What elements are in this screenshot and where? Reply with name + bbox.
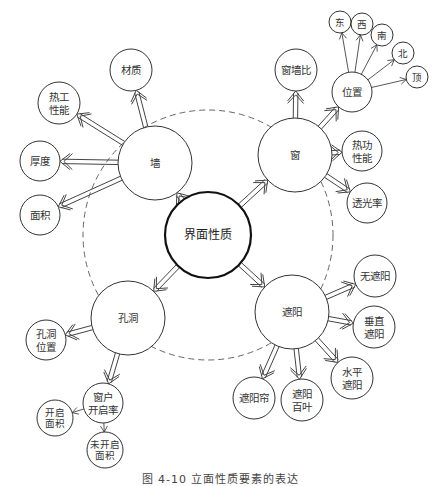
node-label: 透光率 [352,197,382,209]
double-arrow-icon [60,154,118,170]
node-shade-curtain: 遮阳帘 [233,377,275,419]
node-label: 孔洞 [118,312,138,324]
node-window-thermal: 热功性能 [342,131,382,171]
node-label: 东 [335,17,345,28]
node-window: 窗 [258,118,332,192]
double-arrow-icon [315,338,338,363]
node-pos-top: 顶 [406,66,428,88]
node-label: 垂直 [364,315,385,327]
node-label: 孔洞 [36,328,56,340]
node-opening: 孔洞 [91,281,165,355]
node-window-wall-ratio: 窗墙比 [275,49,317,91]
node-label: 窗户 [93,391,113,403]
arrow-icon [339,33,348,72]
node-pos-west: 西 [351,13,373,35]
double-arrow-icon [325,174,351,193]
node-wall-thermal: 热工性能 [38,82,80,124]
figure-caption: 图 4-10 立面性质要素的表达 [0,470,441,486]
node-wall-material: 材质 [110,49,152,91]
double-arrow-icon [238,180,268,208]
node-label: 西 [357,19,367,30]
node-label: 遮阳 [292,388,312,400]
nodes: 界面性质墙窗孔洞遮阳材质热工性能厚度面积窗墙比位置热功性能透光率孔洞位置窗户开启… [20,11,428,468]
double-arrow-icon [290,349,306,380]
double-arrow-icon [325,281,356,299]
double-arrow-icon [318,107,339,129]
node-horizontal-shading: 水平遮阳 [331,357,373,399]
node-shading: 遮阳 [255,275,329,349]
node-label: 热工 [49,91,69,103]
node-wall-thickness: 厚度 [20,141,60,181]
arrow-icon [100,423,107,432]
node-wall: 墙 [118,126,192,200]
node-label: 性能 [352,152,373,164]
node-label: 面积 [45,418,65,429]
node-opening-position: 孔洞位置 [26,320,66,360]
node-label: 窗墙比 [281,64,311,76]
node-label: 开启 [45,407,65,418]
node-pos-east: 东 [329,11,351,33]
node-label: 性能 [49,104,70,116]
node-label: 窗 [290,149,300,161]
node-label: 顶 [412,72,422,83]
node-label: 材质 [121,64,141,76]
node-label: 位置 [342,86,362,98]
node-label: 厚度 [30,155,51,167]
double-arrow-icon [259,345,279,379]
node-pos-north: 北 [392,42,414,64]
node-label: 无遮阳 [360,270,390,282]
node-window-transmittance: 透光率 [347,183,387,223]
node-label: 热功 [352,139,372,151]
double-arrow-icon [104,353,120,384]
node-label: 面积 [95,450,115,461]
node-label: 百叶 [292,401,313,413]
node-label: 北 [398,48,408,59]
node-label: 遮阳帘 [239,392,269,404]
node-label: 位置 [36,341,56,353]
node-interface: 界面性质 [165,192,251,278]
node-label: 遮阳 [364,328,384,340]
node-label: 遮阳 [342,379,362,391]
node-label: 界面性质 [184,228,232,242]
double-arrow-icon [288,91,304,118]
node-shade-louver: 遮阳百叶 [281,379,323,421]
node-open-area: 开启面积 [37,400,73,436]
node-label: 墙 [150,157,161,169]
node-window-position: 位置 [332,72,372,112]
double-arrow-icon [65,324,93,340]
double-arrow-icon [328,313,353,329]
node-label: 遮阳 [282,306,302,318]
double-arrow-icon [238,262,265,287]
double-arrow-icon [153,264,179,291]
arrow-icon [361,45,377,75]
arrow-icon [72,408,84,415]
arrow-icon [371,77,406,87]
node-opening-rate: 窗户开启率 [83,383,123,423]
node-label: 未开启 [90,439,120,450]
node-closed-area: 未开启面积 [87,432,123,468]
node-label: 南 [377,30,387,41]
double-arrow-icon [131,90,148,127]
node-vertical-shading: 垂直遮阳 [353,306,395,348]
arrow-icon [355,35,363,72]
node-label: 水平 [342,366,362,378]
node-label: 面积 [30,209,51,221]
node-label: 开启率 [88,404,118,416]
node-pos-south: 南 [371,24,393,46]
node-wall-area: 面积 [20,195,60,235]
double-arrow-icon [77,113,125,146]
node-no-shading: 无遮阳 [354,255,396,297]
arrow-icon [368,60,394,80]
